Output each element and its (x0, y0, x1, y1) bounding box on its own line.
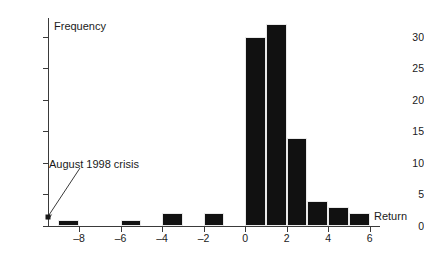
y-tick-20 (43, 100, 49, 101)
bar (204, 213, 225, 226)
bar (266, 24, 287, 226)
y-tick-label-0: 0 (386, 221, 424, 231)
annotation-arrow-icon (40, 166, 110, 224)
x-tick-label--6: –6 (108, 233, 134, 244)
x-tick-label-2: 2 (274, 233, 300, 244)
bar (349, 213, 370, 226)
histogram-chart: Frequency Return 051015202530 –8–6–4–202… (0, 0, 424, 265)
x-tick-label-6: 6 (357, 233, 383, 244)
bar (307, 201, 328, 226)
bar (328, 207, 349, 226)
y-tick-25 (43, 68, 49, 69)
y-axis-title: Frequency (54, 20, 106, 32)
y-tick-label-30: 30 (386, 32, 424, 42)
x-tick-label-0: 0 (232, 233, 258, 244)
y-tick-label-15: 15 (386, 126, 424, 136)
bar (162, 213, 183, 226)
y-tick-30 (43, 37, 49, 38)
x-tick-label--4: –4 (149, 233, 175, 244)
y-tick-label-20: 20 (386, 95, 424, 105)
y-tick-label-10: 10 (386, 158, 424, 168)
bar (245, 37, 266, 226)
x-tick-label-4: 4 (315, 233, 341, 244)
y-tick-label-25: 25 (386, 63, 424, 73)
x-tick-label--2: –2 (191, 233, 217, 244)
bar (287, 138, 308, 226)
y-tick-15 (43, 131, 49, 132)
bar (121, 220, 142, 226)
x-tick-label--8: –8 (66, 233, 92, 244)
x-axis-line (48, 226, 380, 227)
y-tick-0 (43, 226, 49, 227)
y-tick-label-5: 5 (386, 189, 424, 199)
